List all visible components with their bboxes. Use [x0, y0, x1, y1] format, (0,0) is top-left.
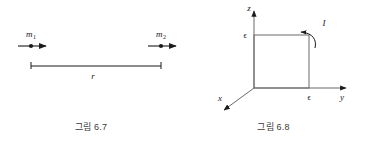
mass-1-subscript: 1 [33, 34, 36, 40]
x-axis [224, 88, 254, 110]
mass-1-group: m 1 [18, 29, 46, 48]
mass-2-group: m 2 [148, 29, 176, 48]
square-current-loop [254, 35, 309, 88]
square-loop-group [254, 35, 309, 88]
figure-page: m 1 m 2 r 그림 6.7 [0, 0, 365, 152]
current-loop-diagram: z y x ϵ ϵ [182, 0, 365, 118]
y-axis-label: y [339, 92, 344, 102]
figure-6-7-canvas: m 1 m 2 r [0, 0, 182, 118]
x-axis-label: x [217, 93, 222, 103]
current-indicator-group: I [301, 18, 327, 48]
mass-2-point [159, 44, 163, 48]
mass-1-label: m [26, 29, 33, 39]
distance-dimension-group: r [31, 62, 161, 81]
distance-label: r [91, 71, 95, 81]
z-axis-label: z [246, 3, 251, 13]
current-direction-arrow [301, 32, 315, 48]
figure-6-8: z y x ϵ ϵ [182, 0, 365, 152]
figure-6-8-canvas: z y x ϵ ϵ [182, 0, 365, 118]
epsilon-y-label: ϵ [307, 93, 311, 102]
epsilon-z-label: ϵ [243, 31, 247, 40]
mass-2-label: m [156, 29, 163, 39]
two-mass-diagram: m 1 m 2 r [0, 0, 182, 118]
figure-6-8-caption: 그림 6.8 [182, 120, 365, 133]
figure-6-7-caption: 그림 6.7 [0, 120, 182, 133]
mass-2-subscript: 2 [163, 34, 166, 40]
mass-1-point [29, 44, 33, 48]
current-label: I [322, 18, 327, 28]
figure-6-7: m 1 m 2 r 그림 6.7 [0, 0, 182, 152]
coordinate-axes-group: z y x [217, 3, 346, 110]
